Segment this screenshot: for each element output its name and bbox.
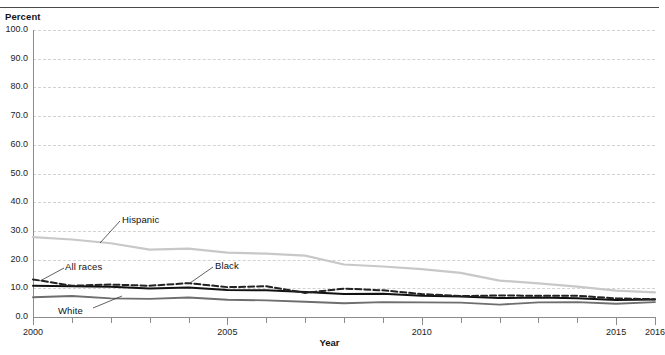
gridline [33,231,655,232]
x-axis-title: Year [0,337,659,348]
x-tick [111,317,112,323]
x-tick [461,317,462,323]
y-tick-label: 80.0 [0,81,28,91]
x-tick [189,317,190,323]
gridline [33,59,655,60]
series-line-black [33,279,655,299]
leader-line-hispanic [100,221,120,243]
leader-line-white [93,296,122,308]
x-tick [577,317,578,323]
gridline [33,288,655,289]
series-label-hispanic: Hispanic [122,214,159,225]
y-tick-label: 0.0 [0,311,28,321]
header-divider [0,7,659,8]
x-tick [150,317,151,323]
x-tick-label: 2010 [412,327,432,337]
x-tick [344,317,345,323]
series-line-white [33,296,655,305]
y-tick-label: 30.0 [0,225,28,235]
x-tick [500,317,501,323]
x-tick [655,317,656,325]
y-tick-label: 90.0 [0,53,28,63]
series-line-hispanic [33,237,655,292]
x-tick [33,317,34,325]
y-tick-label: 10.0 [0,282,28,292]
x-tick-label: 2016 [645,327,665,337]
y-tick-label: 20.0 [0,254,28,264]
y-tick-label: 70.0 [0,110,28,120]
x-tick [616,317,617,325]
x-tick [266,317,267,323]
x-tick [538,317,539,323]
y-tick-label: 40.0 [0,196,28,206]
x-tick [422,317,423,325]
series-label-white: White [58,305,83,316]
y-tick-label: 60.0 [0,139,28,149]
gridline [33,30,655,31]
gridline [33,87,655,88]
x-tick-label: 2000 [23,327,43,337]
gridline [33,260,655,261]
leader-line-black [190,267,213,283]
gridline [33,202,655,203]
x-tick [227,317,228,325]
y-tick-label: 50.0 [0,168,28,178]
y-axis-title: Percent [5,11,41,22]
y-tick-label: 100.0 [0,24,28,34]
series-label-all-races: All races [65,261,102,272]
gridline [33,145,655,146]
gridline [33,116,655,117]
x-tick [305,317,306,323]
x-tick-label: 2005 [217,327,237,337]
x-tick-label: 2015 [606,327,626,337]
gridline [33,174,655,175]
leader-line-all-races [40,268,64,281]
y-axis-line [33,30,34,318]
series-label-black: Black [215,260,239,271]
x-tick [383,317,384,323]
x-tick [72,317,73,323]
